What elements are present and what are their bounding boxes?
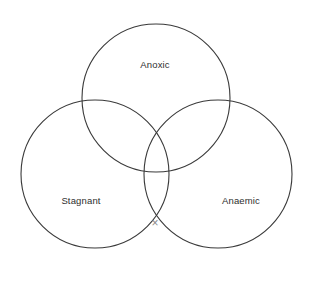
venn-circle-stagnant[interactable] — [21, 100, 169, 248]
venn-circle-anaemic[interactable] — [144, 100, 292, 248]
cross-mark-icon: × — [151, 216, 158, 230]
venn-label-anaemic: Anaemic — [222, 195, 260, 206]
venn-diagram-canvas: Anoxic Stagnant Anaemic × — [0, 0, 310, 303]
venn-diagram-svg: Anoxic Stagnant Anaemic × — [0, 0, 310, 303]
venn-circle-anoxic[interactable] — [82, 24, 230, 172]
venn-label-stagnant: Stagnant — [61, 195, 100, 206]
venn-label-anoxic: Anoxic — [140, 59, 170, 70]
